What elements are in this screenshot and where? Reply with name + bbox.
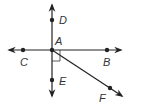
label-d: D: [59, 14, 67, 26]
point-a: [50, 48, 54, 52]
point-d: [50, 18, 54, 22]
point-f: [108, 86, 112, 90]
label-b: B: [103, 56, 110, 68]
label-f: F: [99, 92, 107, 104]
label-c: C: [20, 56, 28, 68]
point-c: [21, 48, 25, 52]
geometry-diagram: A B C D E F: [0, 0, 144, 111]
label-e: E: [59, 75, 67, 87]
point-e: [50, 78, 54, 82]
label-a: A: [54, 35, 62, 47]
point-b: [105, 48, 109, 52]
